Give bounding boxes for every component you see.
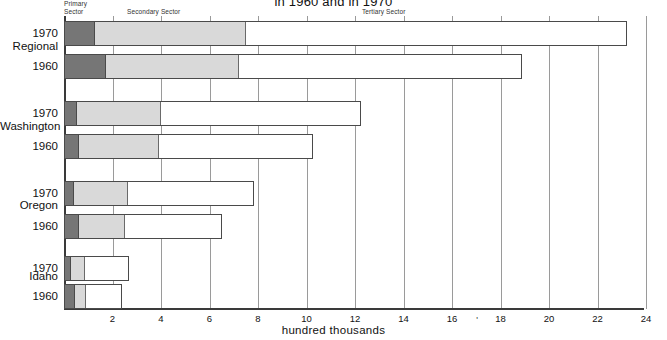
segment-tertiary [125,215,221,238]
bar-regional-1970[interactable] [64,21,627,46]
segment-tertiary [86,285,121,308]
segment-primary [65,182,74,205]
x-tick-6: 6 [198,313,222,324]
x-axis-line [64,308,644,310]
segment-tertiary [85,257,128,280]
y-label-regional-1970: 1970 [0,27,58,39]
bar-regional-1960[interactable] [64,54,522,79]
y-label-idaho-1960: 1960 [0,290,58,302]
segment-secondary [79,215,125,238]
x-tick-18: 18 [489,313,513,324]
x-tick-20: 20 [537,313,561,324]
bar-oregon-1960[interactable] [64,214,222,239]
segment-primary [65,55,106,78]
y-label-washington-1960: 1960 [0,140,58,152]
segment-tertiary [128,182,253,205]
segment-secondary [75,285,86,308]
x-axis-title: hundred thousands [0,324,667,336]
segment-secondary [77,102,161,125]
x-tick-8: 8 [246,313,270,324]
y-label-group-washington: Washington [0,120,58,132]
segment-secondary [71,257,85,280]
segment-tertiary [246,22,625,45]
legend-secondary-sector: Secondary Sector [127,8,217,16]
y-label-washington-1970: 1970 [0,107,58,119]
segment-secondary [74,182,128,205]
bar-oregon-1970[interactable] [64,181,254,206]
gridline-22 [598,16,599,309]
y-label-group-regional: Regional [0,40,58,52]
y-label-regional-1960: 1960 [0,60,58,72]
segment-secondary [79,135,159,158]
segment-primary [65,135,79,158]
x-tick-10: 10 [295,313,319,324]
segment-secondary [106,55,239,78]
bar-idaho-1960[interactable] [64,284,122,309]
x-tick-2: 2 [101,313,125,324]
segment-primary [65,22,95,45]
x-tick-4: 4 [149,313,173,324]
bar-washington-1970[interactable] [64,101,361,126]
x-tick-22: 22 [586,313,610,324]
gridline-24 [646,16,647,309]
x-tick-16: 16 [440,313,464,324]
chart-root: in 1960 and in 1970 Primary Sector Secon… [0,0,667,340]
bar-idaho-1970[interactable] [64,256,129,281]
legend-tertiary-sector: Tertiary Sector [362,8,452,16]
x-tick-12: 12 [343,313,367,324]
y-label-group-oregon: Oregon [0,199,58,211]
segment-tertiary [159,135,312,158]
segment-primary [65,102,77,125]
segment-primary [65,285,75,308]
y-label-oregon-1970: 1970 [0,187,58,199]
gridline-20 [549,16,550,309]
segment-tertiary [161,102,360,125]
x-tick-14: 14 [392,313,416,324]
x-tick-24: 24 [634,313,658,324]
y-label-oregon-1960: 1960 [0,220,58,232]
segment-secondary [95,22,246,45]
bar-washington-1960[interactable] [64,134,313,159]
segment-primary [65,215,79,238]
legend-primary-sector: Primary Sector [64,0,110,15]
y-label-group-idaho: Idaho [0,270,58,282]
segment-tertiary [239,55,521,78]
